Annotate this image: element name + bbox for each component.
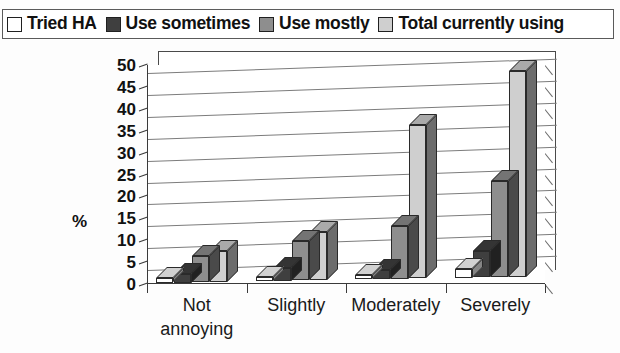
side-wall-rule [545, 240, 553, 250]
y-axis-tick-label: 35 [90, 122, 136, 139]
x-axis-label: Severely [434, 294, 558, 318]
x-axis-tick-marks [147, 284, 557, 294]
legend-item-total-currently-using[interactable]: Total currently using [378, 15, 563, 33]
side-wall-rule [545, 197, 553, 207]
chart-legend: Tried HA Use sometimes Use mostly Total … [2, 9, 614, 39]
x-axis-tick-mark [346, 284, 347, 293]
y-axis-tick-label: 15 [90, 210, 136, 227]
y-axis-tick-label: 40 [90, 100, 136, 117]
legend-item-tried-ha[interactable]: Tried HA [7, 15, 97, 33]
x-axis-tick-mark [545, 284, 546, 293]
x-axis-tick-mark [247, 284, 248, 293]
bar-front-face [455, 269, 472, 278]
plot-wrapper: % 50454035302520151050 Not annoyingSligh… [0, 44, 620, 353]
x-axis-tick-mark [147, 284, 148, 293]
y-axis-tick-label: 20 [90, 188, 136, 205]
legend-label: Total currently using [398, 15, 563, 33]
y-axis-tick-label: 10 [90, 232, 136, 249]
side-wall-rule [545, 109, 553, 119]
y-axis-tick-label: 30 [90, 144, 136, 161]
bars-layer [148, 65, 545, 283]
side-wall-rule [545, 65, 553, 75]
bar-side-face [526, 60, 537, 277]
bar-front-face [256, 277, 273, 281]
bar-front-face [355, 275, 372, 279]
legend-swatch-icon [259, 17, 274, 32]
y-axis-tick-label: 50 [90, 57, 136, 74]
y-axis-title: % [72, 212, 87, 232]
chart-side-wall [545, 51, 557, 284]
side-wall-rule [545, 131, 553, 141]
y-axis-tick-label: 45 [90, 78, 136, 95]
bar[interactable] [156, 278, 173, 282]
legend-label: Use mostly [279, 15, 369, 33]
bar[interactable] [355, 275, 372, 279]
legend-swatch-icon [106, 17, 121, 32]
legend-item-use-sometimes[interactable]: Use sometimes [106, 15, 251, 33]
side-wall-rule [545, 153, 553, 163]
x-axis-tick-mark [446, 284, 447, 293]
legend-label: Tried HA [27, 15, 97, 33]
bar-side-face [426, 114, 437, 278]
side-wall-rule [545, 218, 553, 228]
bar[interactable] [455, 269, 472, 278]
bar[interactable] [256, 277, 273, 281]
y-axis-tick-label: 5 [90, 254, 136, 271]
side-wall-rule [545, 175, 553, 185]
side-wall-rule [545, 87, 553, 97]
legend-swatch-icon [7, 17, 22, 32]
bar-front-face [156, 278, 173, 282]
y-axis-tick-label: 25 [90, 166, 136, 183]
legend-swatch-icon [378, 17, 393, 32]
plot-area [147, 65, 545, 284]
chart-root: Tried HA Use sometimes Use mostly Total … [0, 0, 620, 353]
bar-side-face [508, 170, 519, 277]
y-axis-tick-label: 0 [90, 276, 136, 293]
y-axis-tick-labels: 50454035302520151050 [90, 44, 136, 353]
legend-item-use-mostly[interactable]: Use mostly [259, 15, 369, 33]
legend-label: Use sometimes [126, 15, 251, 33]
x-axis-labels: Not annoyingSlightlyModeratelySeverely [147, 294, 559, 352]
side-wall-rule [545, 262, 553, 272]
